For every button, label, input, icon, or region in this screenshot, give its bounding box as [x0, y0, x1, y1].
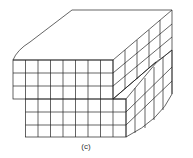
upper-front-face-grid [13, 60, 113, 99]
sheared-block-diagram [0, 0, 193, 158]
lower-front-face-grid [26, 99, 127, 137]
top-face [13, 10, 172, 60]
figure-caption: (c) [0, 142, 172, 151]
